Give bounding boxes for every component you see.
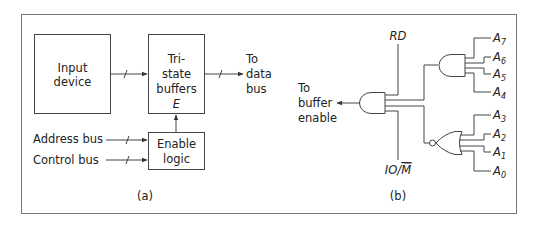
- input-device-label-2: device: [54, 75, 92, 89]
- panel-a: [35, 35, 244, 170]
- a4-label: A4: [492, 85, 506, 101]
- buffer-enable-label-2: buffer: [298, 96, 333, 110]
- data-bus-label-1: To: [245, 52, 258, 66]
- nor-feed-line: [385, 106, 429, 143]
- tristate-label-3: buffers: [156, 82, 196, 96]
- a4-line: [465, 73, 491, 92]
- tristate-label-1: Tri-: [167, 52, 185, 66]
- control-bus-label: Control bus: [33, 153, 99, 167]
- a2-label: A2: [492, 127, 506, 143]
- inversion-bubble-icon: [430, 140, 436, 146]
- data-bus-label-2: data: [246, 67, 272, 81]
- tristate-label-2: state: [162, 67, 191, 81]
- caption-b: (b): [390, 189, 406, 203]
- a1-label: A1: [492, 145, 506, 161]
- enable-pin-label: E: [173, 97, 181, 111]
- a0-line: [460, 151, 491, 171]
- nor-gate-icon: [436, 132, 462, 155]
- enable-logic-label-1: Enable: [157, 137, 196, 151]
- a6-label: A6: [492, 50, 506, 66]
- a7-line: [465, 38, 491, 58]
- address-bus-label: Address bus: [33, 132, 103, 146]
- io-m-label: IO/M: [385, 163, 411, 177]
- buffer-enable-label-3: enable: [298, 111, 337, 125]
- a3-line: [460, 115, 491, 135]
- a0-label: A0: [492, 164, 506, 180]
- panel-b: [337, 38, 491, 171]
- io-m-line: [385, 111, 398, 160]
- m-bar-label: M: [401, 163, 411, 177]
- data-bus-label-3: bus: [246, 82, 267, 96]
- caption-a: (a): [137, 189, 153, 203]
- main-and-gate-icon: [360, 93, 385, 114]
- upper-and-gate-icon: [439, 55, 465, 77]
- rd-line: [385, 44, 398, 95]
- enable-logic-label-2: logic: [163, 152, 190, 166]
- rd-label: RD: [390, 29, 407, 43]
- buffer-enable-label-1: To: [297, 81, 310, 95]
- a7-label: A7: [492, 31, 507, 47]
- a5-label: A5: [492, 67, 506, 83]
- a3-label: A3: [492, 108, 506, 124]
- diagram-canvas: Input device Tri- state buffers E To dat…: [0, 0, 538, 226]
- input-device-label-1: Input: [58, 61, 88, 75]
